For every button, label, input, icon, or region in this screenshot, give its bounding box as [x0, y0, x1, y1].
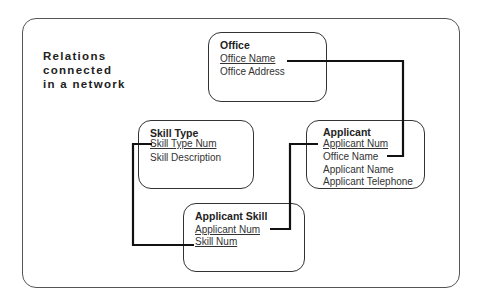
- attribute-applicant-num: Applicant Num: [195, 224, 260, 235]
- attribute-office-name: Office Name: [220, 53, 275, 64]
- diagram-caption: Relations connected in a network: [43, 49, 126, 91]
- attribute-office-name: Office Name: [323, 151, 378, 162]
- entity-skill-type: Skill Type Skill Type Num Skill Descript…: [138, 120, 254, 189]
- entity-applicant-skill: Applicant Skill Applicant Num Skill Num: [183, 203, 305, 272]
- entity-title: Applicant: [323, 126, 371, 138]
- attribute-applicant-num: Applicant Num: [323, 138, 388, 149]
- attribute-skill-description: Skill Description: [150, 152, 221, 163]
- attribute-office-address: Office Address: [220, 66, 285, 77]
- entity-title: Applicant Skill: [195, 210, 267, 222]
- attribute-applicant-name: Applicant Name: [323, 164, 394, 175]
- attribute-skill-num: Skill Num: [195, 236, 237, 247]
- attribute-skill-type-num: Skill Type Num: [150, 138, 217, 149]
- attribute-applicant-telephone: Applicant Telephone: [323, 176, 413, 187]
- entity-applicant: Applicant Applicant Num Office Name Appl…: [306, 120, 425, 189]
- entity-title: Office: [220, 39, 250, 51]
- entity-office: Office Office Name Office Address: [208, 32, 327, 102]
